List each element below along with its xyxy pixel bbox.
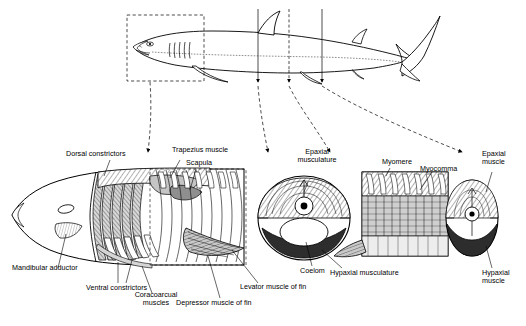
label-depressor-muscle-of-fin: Depressor muscle of fin [176, 299, 252, 307]
trunk-cross-section [258, 176, 350, 260]
myomere-block-detail [334, 172, 448, 257]
coelom-shape [280, 218, 328, 246]
leader-to-trunk-section [258, 86, 268, 152]
figure-root: Dorsal constrictors Trapezius muscle Sca… [0, 0, 526, 326]
caudal-cross-section [446, 180, 498, 256]
label-levator-muscle-of-fin: Levator muscle of fin [240, 283, 306, 291]
label-coelom: Coelom [300, 267, 325, 275]
label-epaxial-muscle-line2: muscle [482, 157, 505, 166]
label-hypaxial-muscle: Hypaxial muscle [482, 269, 526, 286]
label-trapezius-muscle: Trapezius muscle [172, 146, 228, 154]
label-hypaxial-musculature: Hypaxial musculature [330, 269, 399, 277]
leader-to-caudal-section [322, 86, 462, 152]
label-myomere: Myomere [382, 158, 412, 166]
anterior-musculature-detail [12, 168, 246, 268]
label-scapula: Scapula [186, 159, 212, 167]
label-epaxial-musculature-line2: musculature [297, 155, 336, 164]
whole-shark-lateral-view [127, 9, 440, 84]
leader-to-anterior-panel [148, 82, 151, 152]
label-mandibular-adductor: Mandibular adductor [12, 264, 78, 272]
label-coracoarcual-muscles-line2: muscles [143, 298, 169, 307]
label-epaxial-musculature: Epaxial musculature [288, 148, 346, 165]
label-dorsal-constrictors: Dorsal constrictors [66, 150, 126, 158]
callout-leaders [148, 82, 462, 152]
leader-to-myomere-panel [289, 86, 330, 152]
label-myocomma: Myocomma [420, 165, 457, 173]
label-hypaxial-muscle-line2: muscle [482, 276, 505, 285]
label-epaxial-muscle: Epaxial muscle [482, 150, 522, 167]
diagram-artwork [0, 0, 526, 326]
